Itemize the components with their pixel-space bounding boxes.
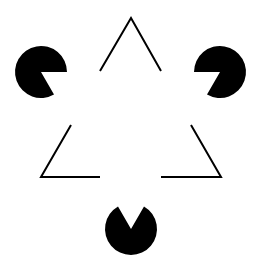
kanizsa-figure bbox=[0, 0, 257, 270]
